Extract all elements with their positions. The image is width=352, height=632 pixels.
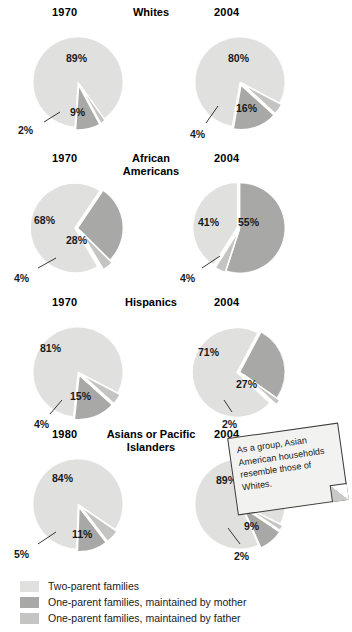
pie-chart: 41%55%4% (176, 176, 304, 284)
pie-chart: 89%9%2% (14, 30, 142, 138)
group-title: AfricanAmericans (96, 152, 206, 178)
pie-chart: 68%28%4% (14, 176, 142, 284)
pie-slice-label: 4% (190, 128, 205, 140)
chart-group: 1970AfricanAmericans200468%28%4%41%55%4% (0, 152, 352, 298)
pie-slice-label: 41% (198, 216, 219, 228)
pie-svg (14, 30, 142, 138)
pie-svg (176, 30, 304, 138)
chart-year-label: 1970 (52, 6, 77, 18)
note-text: As a group, Asian American households re… (236, 430, 339, 493)
pie-slice-label: 55% (238, 216, 259, 228)
legend-swatch (20, 581, 39, 592)
pie-slice-label: 4% (180, 272, 195, 284)
pie-slice-label: 28% (66, 234, 87, 246)
pie-svg (14, 320, 142, 428)
pie-slice-label: 15% (70, 390, 91, 402)
group-title: Hispanics (96, 296, 206, 309)
legend-label: One-parent families, maintained by mothe… (48, 596, 246, 608)
pie-slice-label: 80% (228, 52, 249, 64)
chart-year-label: 2004 (214, 6, 239, 18)
pie-slice-label: 16% (236, 102, 257, 114)
pie-chart: 80%16%4% (176, 30, 304, 138)
pie-chart: 81%15%4% (14, 320, 142, 428)
legend-item: One-parent families, maintained by fathe… (20, 610, 246, 626)
pie-slice-label: 2% (18, 124, 33, 136)
legend-item: One-parent families, maintained by mothe… (20, 594, 246, 610)
chart-year-label: 1970 (52, 152, 77, 164)
legend-label: One-parent families, maintained by fathe… (48, 612, 241, 624)
pie-slice-label: 71% (198, 346, 219, 358)
pie-slice-label: 5% (14, 548, 29, 560)
annotation-note: As a group, Asian American households re… (227, 423, 349, 516)
chart-group: 1970Whites200489%9%2%80%16%4% (0, 6, 352, 152)
chart-year-label: 1980 (52, 428, 77, 440)
pie-slice-label: 27% (236, 378, 257, 390)
pie-svg (176, 176, 304, 284)
pie-slice-label: 81% (40, 342, 61, 354)
legend-swatch (20, 597, 39, 608)
legend-swatch (20, 613, 39, 624)
pie-slice-label: 4% (14, 272, 29, 284)
legend: Two-parent familiesOne-parent families, … (20, 578, 246, 626)
group-title: Asians or PacificIslanders (96, 428, 206, 454)
pie-svg (14, 452, 142, 560)
legend-label: Two-parent families (48, 580, 139, 592)
pie-slice-label: 2% (234, 550, 249, 562)
pie-svg (14, 176, 142, 284)
note-body: As a group, Asian American households re… (227, 423, 349, 516)
pie-slice-label: 84% (52, 472, 73, 484)
group-title: Whites (96, 6, 206, 19)
chart-year-label: 1970 (52, 296, 77, 308)
pie-slice-label: 9% (244, 520, 259, 532)
pie-slice-label: 9% (70, 106, 85, 118)
chart-group: 1970Hispanics200481%15%4%71%27%2% (0, 296, 352, 442)
pie-slice-label: 11% (72, 528, 92, 540)
chart-year-label: 2004 (214, 296, 239, 308)
pie-slice-label: 89% (66, 52, 87, 64)
legend-item: Two-parent families (20, 578, 246, 594)
pie-chart-figure: 1970Whites200489%9%2%80%16%4%1970African… (0, 0, 352, 632)
pie-chart: 71%27%2% (176, 320, 304, 428)
pie-svg (176, 320, 304, 428)
pie-slice-label: 68% (34, 214, 55, 226)
chart-year-label: 2004 (214, 152, 239, 164)
note-folded-corner-icon (330, 483, 349, 502)
pie-chart: 84%11%5% (14, 452, 142, 560)
